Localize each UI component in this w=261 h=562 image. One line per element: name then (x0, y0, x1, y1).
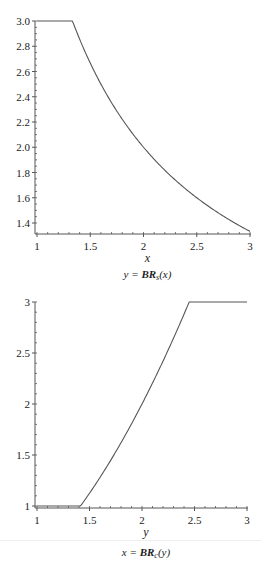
charts-canvas: 3.02.82.62.42.22.01.81.61.411.522.53xy =… (0, 0, 261, 562)
x-axis-label: x (144, 251, 151, 265)
chart-br-c: 32.521.5111.522.53yx = BRc(y) (16, 296, 250, 560)
x-tick-label: 3 (244, 514, 250, 526)
y-tick-label: 2.5 (16, 347, 30, 359)
chart-br-s: 3.02.82.62.42.22.01.81.61.411.522.53xy =… (16, 15, 253, 282)
x-tick-label: 1 (34, 514, 40, 526)
y-tick-label: 1.5 (16, 449, 30, 461)
x-tick-label: 3 (247, 240, 253, 252)
y-tick-label: 1.4 (16, 217, 30, 229)
y-tick-label: 3 (25, 296, 31, 308)
y-tick-label: 1.8 (16, 167, 30, 179)
x-axis-label: y (142, 525, 149, 539)
y-tick-label: 3.0 (16, 15, 30, 27)
y-tick-label: 2.0 (16, 141, 30, 153)
y-tick-label: 2.2 (16, 116, 30, 128)
chart-caption: y = BRs(x) (123, 268, 172, 282)
y-tick-label: 1 (25, 500, 31, 512)
curve-line (37, 302, 247, 506)
y-tick-label: 1.6 (16, 192, 30, 204)
x-tick-label: 1.5 (83, 240, 97, 252)
curve-line (37, 21, 250, 231)
y-tick-label: 2.4 (16, 91, 30, 103)
chart-caption: x = BRc(y) (121, 546, 171, 560)
x-tick-label: 2.5 (188, 514, 202, 526)
y-tick-label: 2.6 (16, 66, 30, 78)
x-tick-label: 1 (34, 240, 40, 252)
x-tick-label: 1.5 (83, 514, 97, 526)
divider (0, 540, 261, 541)
y-tick-label: 2 (25, 398, 31, 410)
x-tick-label: 2.5 (190, 240, 204, 252)
y-tick-label: 2.8 (16, 40, 30, 52)
